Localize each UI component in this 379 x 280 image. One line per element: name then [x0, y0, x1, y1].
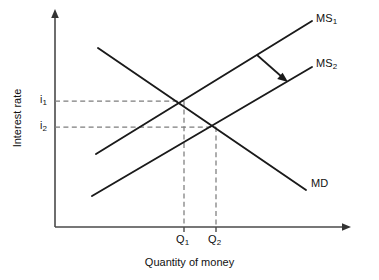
axes-group — [51, 9, 351, 231]
chart-canvas — [0, 0, 379, 280]
curves-group — [92, 21, 312, 196]
series-label-ms2-text: MS — [316, 57, 333, 69]
y-tick-label-i2: i2 — [40, 120, 47, 133]
curve-ms1 — [96, 21, 312, 154]
x-tick-label-q1-sub: 1 — [185, 238, 189, 247]
curve-md — [98, 48, 306, 190]
x-axis-arrowhead — [342, 223, 351, 231]
y-tick-label-i1: i1 — [40, 94, 47, 107]
shift-arrow-shaft — [257, 55, 282, 77]
x-axis-title: Quantity of money — [0, 256, 379, 268]
y-tick-label-i1-sub: 1 — [42, 98, 46, 107]
series-label-ms2-sub: 2 — [333, 62, 337, 71]
y-axis-arrowhead — [51, 9, 59, 18]
series-label-ms2: MS2 — [316, 58, 337, 71]
series-label-ms1-sub: 1 — [333, 17, 337, 26]
series-label-md: MD — [311, 178, 328, 189]
supply-shift-arrow — [257, 55, 288, 82]
curve-ms2 — [92, 67, 312, 196]
y-tick-label-i2-sub: 2 — [42, 124, 46, 133]
series-label-ms1-text: MS — [316, 12, 333, 24]
dashed-guides-group — [55, 101, 216, 227]
money-market-chart: MS1 MS2 MD i1 i2 Q1 Q2 Quantity of money… — [0, 0, 379, 280]
x-tick-label-q2: Q2 — [208, 234, 221, 247]
x-tick-label-q2-text: Q — [208, 233, 217, 245]
y-axis-title: Interest rate — [11, 63, 23, 173]
x-tick-label-q1: Q1 — [176, 234, 189, 247]
x-tick-label-q1-text: Q — [176, 233, 185, 245]
series-label-ms1: MS1 — [316, 13, 337, 26]
x-tick-label-q2-sub: 2 — [217, 238, 221, 247]
series-label-md-text: MD — [311, 177, 328, 189]
